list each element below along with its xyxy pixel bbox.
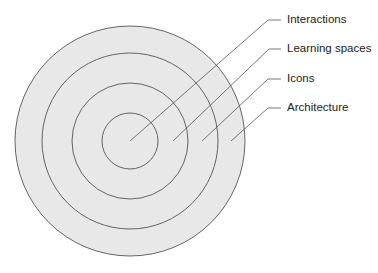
label-architecture: Architecture — [287, 102, 348, 114]
concentric-diagram — [0, 0, 378, 273]
label-icons: Icons — [287, 73, 315, 85]
label-interactions: Interactions — [287, 14, 346, 26]
label-learning-spaces: Learning spaces — [287, 43, 371, 55]
